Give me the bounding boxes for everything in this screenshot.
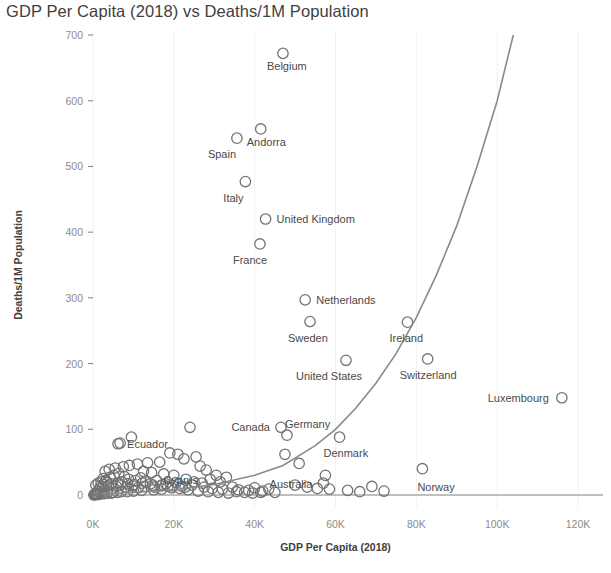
x-axis-title: GDP Per Capita (2018) bbox=[280, 541, 391, 553]
y-tick-label: 700 bbox=[65, 29, 83, 41]
data-point-sweden bbox=[305, 316, 315, 326]
x-tick-label: 80K bbox=[407, 518, 426, 530]
data-point-united-states bbox=[341, 355, 351, 365]
chart-container: GDP Per Capita (2018) vs Deaths/1M Popul… bbox=[0, 0, 611, 573]
y-tick-label: 200 bbox=[65, 358, 83, 370]
data-point-germany bbox=[282, 430, 292, 440]
y-tick-label: 500 bbox=[65, 160, 83, 172]
x-tick-label: 40K bbox=[245, 518, 264, 530]
data-point bbox=[367, 481, 377, 491]
axes-group bbox=[88, 35, 603, 495]
x-tick-label: 20K bbox=[164, 518, 183, 530]
point-label-andorra: Andorra bbox=[247, 136, 287, 148]
x-tick-label: 100K bbox=[485, 518, 510, 530]
point-label-sweden: Sweden bbox=[288, 332, 328, 344]
point-label-united-kingdom: United Kingdom bbox=[277, 213, 355, 225]
data-point-switzerland bbox=[422, 354, 432, 364]
data-point bbox=[294, 458, 304, 468]
x-tick-label: 120K bbox=[566, 518, 591, 530]
data-point-united-kingdom bbox=[260, 214, 270, 224]
y-tick-label: 300 bbox=[65, 292, 83, 304]
gridlines-group bbox=[93, 30, 578, 508]
point-label-germany: Germany bbox=[285, 418, 331, 430]
data-point-belgium bbox=[278, 48, 288, 58]
data-point-andorra bbox=[256, 124, 266, 134]
point-label-netherlands: Netherlands bbox=[316, 294, 376, 306]
y-tick-label: 100 bbox=[65, 423, 83, 435]
y-tick-label: 0 bbox=[77, 489, 83, 501]
point-label-canada: Canada bbox=[231, 421, 270, 433]
data-point bbox=[280, 449, 290, 459]
point-label-belgium: Belgium bbox=[267, 60, 307, 72]
point-label-luxembourg: Luxembourg bbox=[488, 392, 549, 404]
point-label-cyprus: Cyprus bbox=[163, 474, 198, 486]
data-point-spain bbox=[232, 133, 242, 143]
data-point bbox=[324, 484, 334, 494]
data-point bbox=[154, 457, 164, 467]
y-axis-title: Deaths/1M Population bbox=[12, 210, 24, 320]
y-tick-label: 600 bbox=[65, 95, 83, 107]
data-point-luxembourg bbox=[557, 393, 567, 403]
data-point-norway bbox=[417, 464, 427, 474]
point-label-switzerland: Switzerland bbox=[400, 369, 457, 381]
data-points-group bbox=[89, 48, 567, 500]
data-point bbox=[342, 485, 352, 495]
point-label-australia: Australia bbox=[270, 478, 314, 490]
data-point bbox=[185, 422, 195, 432]
y-tick-label: 400 bbox=[65, 226, 83, 238]
point-label-denmark: Denmark bbox=[324, 447, 369, 459]
x-tick-label: 0K bbox=[87, 518, 100, 530]
data-point-italy bbox=[240, 176, 250, 186]
data-point-france bbox=[255, 239, 265, 249]
point-label-ecuador: Ecuador bbox=[127, 438, 168, 450]
data-point-netherlands bbox=[300, 295, 310, 305]
point-label-spain: Spain bbox=[208, 148, 236, 160]
point-label-ireland: Ireland bbox=[389, 332, 423, 344]
scatter-plot-svg: BelgiumAndorraSpainItalyUnited KingdomFr… bbox=[0, 0, 611, 573]
x-tick-label: 60K bbox=[326, 518, 345, 530]
point-label-united-states: United States bbox=[296, 370, 363, 382]
point-label-norway: Norway bbox=[417, 481, 455, 493]
point-label-italy: Italy bbox=[223, 192, 244, 204]
point-label-france: France bbox=[233, 254, 267, 266]
